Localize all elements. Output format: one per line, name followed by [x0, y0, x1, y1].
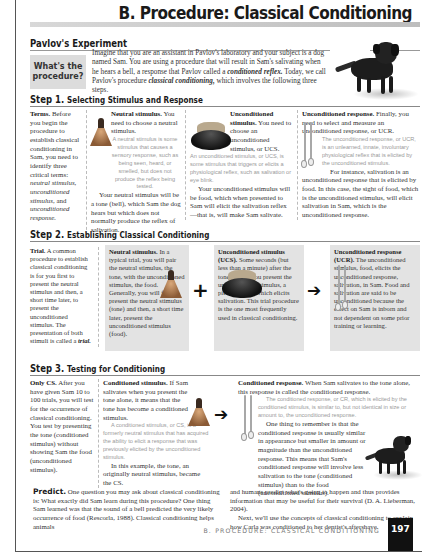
bell-icon [160, 270, 182, 300]
bell-icon [188, 398, 210, 428]
box-label-line1: What's the [30, 62, 86, 72]
textbook-page: B. Procedure: Classical Conditioning Pav… [0, 0, 422, 560]
step2-trial: Trial. A common procedure to establish c… [30, 247, 92, 345]
left-margin-rule [15, 0, 16, 552]
step2-heading: Step 2. Establishing Classical Condition… [30, 229, 209, 240]
step1-rule [30, 106, 420, 107]
pavlov-heading: Pavlov's Experiment [30, 38, 127, 49]
title-underline-bar [30, 22, 420, 27]
step1-heading: Step 1. Selecting Stimulus and Response [30, 94, 203, 105]
predict-lead: Predict. [33, 487, 66, 496]
salivary-gland-icon [334, 265, 350, 313]
step1-terms: Terms. Before you begin the procedure to… [30, 110, 82, 223]
arrow-right-icon: ➔ [307, 280, 321, 300]
running-head: B. PROCEDURE: CLASSICAL CONDITIONING [203, 527, 380, 534]
food-bowl-icon [191, 122, 231, 150]
divider [98, 247, 99, 347]
whats-the-procedure-box: What's the procedure? [30, 55, 86, 89]
salivary-gland-icon [240, 395, 256, 443]
page-number: 197 [388, 518, 413, 551]
step1-number: Step 1. [30, 94, 64, 105]
box-label-line2: procedure? [30, 72, 86, 82]
page-title: B. Procedure: Classical Conditioning [119, 3, 412, 23]
cs-definition: A conditioned stimulus, or CS, is a form… [103, 422, 210, 462]
term-conditioned-reflex: conditioned reflex. [227, 68, 283, 76]
term-classical-conditioning: classical conditioning, [148, 77, 214, 85]
bell-icon [90, 118, 112, 148]
step3-rule [30, 375, 420, 376]
cr-definition: The conditioned response, or CR, which i… [238, 396, 420, 420]
intro-paragraph: Imagine that you are an assistant in Pav… [92, 49, 327, 95]
plus-icon: + [192, 278, 209, 302]
salivary-gland-icon [300, 122, 316, 170]
step1-subtitle: Selecting Stimulus and Response [67, 95, 203, 105]
dog-photo-top [335, 38, 420, 100]
ucr-definition: The unconditioned response, or UCR, is a… [302, 136, 420, 168]
food-bowl-icon [222, 270, 262, 298]
dog-photo-bottom [365, 432, 422, 480]
terms-lead: Terms. [30, 110, 50, 117]
step3-only-cs: Only CS. After you have given Sam 10 to … [30, 379, 94, 474]
step3-conditioned-stimulus: Conditioned stimulus. If Sam salivates w… [98, 379, 210, 488]
step2-unconditioned-stimulus: Unconditioned stimulus (UCS). Some secon… [214, 245, 304, 351]
ucs-definition: An unconditioned stimulus, or UCS, is so… [190, 153, 293, 185]
predict-left: Predict. One question you may ask about … [33, 488, 223, 532]
step3-heading: Step 3. Testing for Conditioning [30, 363, 165, 374]
arrow-right-icon: ➔ [214, 404, 228, 424]
bottom-margin-rule [15, 551, 422, 552]
step2-rule [30, 241, 420, 242]
